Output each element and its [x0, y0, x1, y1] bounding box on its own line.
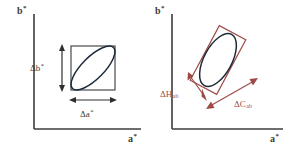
tolerance-ellipse	[65, 40, 122, 97]
x-axis-label-star: *	[134, 132, 138, 140]
delta-b-arrow	[59, 44, 65, 92]
delta-b-label-star: *	[41, 62, 44, 69]
figure-container: b* a* Δb* Δa*	[0, 0, 292, 148]
delta-b-label: Δb*	[30, 62, 44, 74]
delta-a-arrow	[69, 97, 117, 103]
delta-h-arrow	[188, 72, 208, 101]
x-axis-label: a*	[270, 132, 280, 144]
y-axis-label: b*	[155, 4, 165, 16]
delta-h-label-subscript: ab	[173, 93, 179, 99]
delta-c-label: ΔCab	[234, 99, 252, 109]
delta-a-label: Δa*	[80, 108, 94, 120]
delta-c-label-subscript: ab	[246, 103, 252, 109]
tolerance-rectangle-box	[190, 26, 246, 95]
x-axis-label-star: *	[276, 132, 280, 140]
delta-h-label: ΔHab	[160, 89, 178, 99]
rectangular-tolerance-panel: b* a* Δb* Δa*	[0, 0, 146, 148]
chroma-hue-tolerance-panel: b* a* ΔHab ΔCab	[146, 0, 292, 148]
y-axis-label-star: *	[161, 4, 165, 12]
x-axis-label: a*	[128, 132, 138, 144]
y-axis-label: b*	[17, 4, 27, 16]
tolerance-ellipse	[192, 28, 244, 92]
delta-a-label-star: *	[90, 108, 93, 115]
y-axis-label-star: *	[23, 4, 27, 12]
